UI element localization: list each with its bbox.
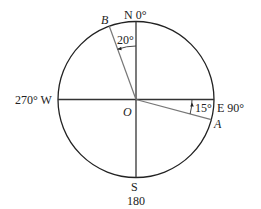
angle-a-label: 15° — [195, 101, 212, 115]
angle-b-label: 20° — [117, 33, 134, 47]
point-a-label: A — [213, 117, 222, 131]
angle-arc-a — [190, 100, 192, 115]
west-label: 270° W — [15, 93, 53, 107]
north-label: N 0° — [124, 8, 147, 22]
compass-diagram: N 0° E 90° 270° W S 180 O B A 20° 15° — [0, 0, 261, 209]
origin-label: O — [123, 105, 132, 119]
point-b-label: B — [101, 13, 109, 27]
arrowhead-a-icon — [190, 103, 194, 107]
south-value-label: 180 — [127, 194, 145, 208]
east-label: E 90° — [217, 101, 244, 115]
south-label: S — [131, 180, 138, 194]
